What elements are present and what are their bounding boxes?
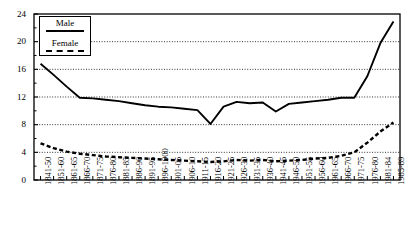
x-axis-label: 1841-50	[44, 157, 53, 185]
x-axis-label: 1966-70	[344, 157, 353, 185]
x-axis-label: 1851-60	[57, 157, 66, 185]
x-axis-label: 1926-30	[240, 157, 249, 185]
x-axis-label: 1911-15	[201, 157, 210, 185]
series-line-male	[41, 22, 394, 124]
legend-label-male: Male	[40, 18, 90, 28]
x-axis-label: 1861-65	[70, 157, 79, 185]
y-axis-label: 24	[8, 10, 26, 19]
x-axis-label: 1946-50	[292, 157, 301, 185]
x-axis-label: 1866-70	[83, 157, 92, 185]
x-axis-label: 1941-45	[279, 157, 288, 185]
x-axis-label: 1921-25	[227, 157, 236, 185]
x-axis-label: 1931-35	[253, 157, 262, 185]
x-axis-label: 1951-55	[305, 157, 314, 185]
legend-item-female: Female	[40, 37, 90, 57]
x-axis-label: 1876-80	[109, 157, 118, 185]
x-axis-label: 1961-65	[331, 157, 340, 185]
y-axis-label: 0	[8, 176, 26, 185]
legend-item-male: Male	[40, 17, 90, 37]
x-axis-label: 1906-10	[188, 157, 197, 185]
x-axis-label: 1976-80	[371, 157, 380, 185]
chart-legend: Male Female	[39, 16, 91, 56]
x-axis-label: 1936-40	[266, 157, 275, 185]
y-axis-label: 4	[8, 148, 26, 157]
x-axis-label: 1981-84	[384, 157, 393, 185]
x-axis-label: 1871-75	[96, 157, 105, 185]
x-axis-label: 1956-60	[318, 157, 327, 185]
y-axis-label: 8	[8, 120, 26, 129]
x-axis-label: 1985-89	[397, 157, 406, 185]
x-axis-label: 1886-90	[135, 157, 144, 185]
x-axis-label: 1881-85	[122, 157, 131, 185]
x-axis-label: 1971-75	[357, 157, 366, 185]
chart-container: Male Female 04812162024 1841-501851-6018…	[0, 0, 415, 239]
y-axis-label: 16	[8, 65, 26, 74]
legend-label-female: Female	[40, 38, 90, 48]
legend-swatch-male-solid-line	[46, 30, 84, 32]
x-axis-label: 1896-1900	[161, 148, 170, 185]
x-axis-label: 1901-05	[174, 157, 183, 185]
y-axis-label: 12	[8, 93, 26, 102]
x-axis-label: 1891-95	[148, 157, 157, 185]
y-axis-label: 20	[8, 37, 26, 46]
x-axis-label: 1916-20	[214, 157, 223, 185]
legend-swatch-female-dashed-line	[46, 50, 84, 52]
